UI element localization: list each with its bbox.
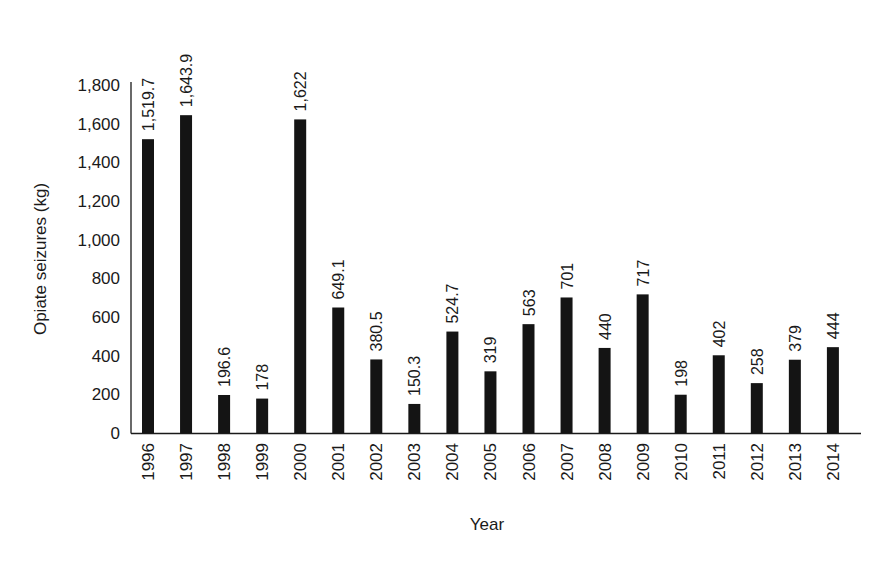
x-tick-label: 2013: [786, 443, 805, 481]
bar-2002: [370, 359, 382, 433]
y-tick-label: 600: [92, 308, 120, 327]
y-tick-label: 0: [111, 424, 120, 443]
bar-value-label: 717: [635, 260, 652, 287]
bar-2004: [446, 332, 458, 433]
bar-2005: [484, 371, 496, 433]
bar-value-label: 1,519.7: [140, 78, 157, 131]
y-tick-label: 1,600: [77, 115, 120, 134]
y-tick-label: 1,000: [77, 231, 120, 250]
bar-value-label: 196.6: [216, 347, 233, 387]
x-tick-label: 2011: [710, 443, 729, 480]
bar-2003: [408, 404, 420, 433]
bar-2007: [561, 297, 573, 433]
bar-value-label: 1,622: [292, 71, 309, 111]
y-tick-label: 1,400: [77, 153, 120, 172]
y-axis-title: Opiate seizures (kg): [31, 183, 50, 335]
bar-value-label: 380.5: [368, 311, 385, 351]
bar-value-labels: 1,519.71,643.9196.61781,622649.1380.5150…: [140, 54, 842, 396]
x-tick-label: 2010: [672, 443, 691, 481]
bar-value-label: 178: [254, 364, 271, 391]
bar-value-label: 319: [482, 337, 499, 364]
y-tick-label: 1,200: [77, 192, 120, 211]
x-tick-label: 2007: [558, 443, 577, 481]
bar-1998: [218, 395, 230, 433]
bar-value-label: 524.7: [444, 283, 461, 323]
bar-value-label: 649.1: [330, 259, 347, 299]
bar-2006: [523, 324, 535, 433]
bar-2012: [751, 383, 763, 433]
x-tick-label: 2012: [748, 443, 767, 481]
bar-2013: [789, 360, 801, 433]
x-tick-label: 1998: [215, 443, 234, 481]
bar-value-label: 563: [521, 289, 538, 316]
bar-value-label: 150.3: [406, 356, 423, 396]
bar-2010: [675, 395, 687, 433]
bar-1999: [256, 399, 268, 433]
y-tick-label: 400: [92, 347, 120, 366]
bar-value-label: 701: [559, 263, 576, 290]
bar-2009: [637, 294, 649, 433]
x-tick-label: 2000: [291, 443, 310, 481]
bar-series: [142, 115, 839, 433]
x-tick-label: 2009: [634, 443, 653, 481]
bar-value-label: 444: [825, 312, 842, 339]
bar-2001: [332, 308, 344, 433]
x-tick-label: 2006: [520, 443, 539, 481]
bar-value-label: 440: [597, 313, 614, 340]
x-tick-label: 1997: [177, 443, 196, 481]
x-tick-label: 2002: [367, 443, 386, 481]
x-tick-label: 2005: [481, 443, 500, 481]
bar-1996: [142, 139, 154, 433]
bar-value-label: 402: [711, 320, 728, 347]
y-axis-tick-labels: 02004006008001,0001,2001,4001,6001,800: [77, 76, 120, 443]
x-axis-title: Year: [470, 515, 505, 534]
x-tick-label: 1999: [253, 443, 272, 481]
x-tick-label: 2008: [596, 443, 615, 481]
x-tick-label: 2001: [329, 443, 348, 481]
bar-2000: [294, 119, 306, 433]
bar-value-label: 379: [787, 325, 804, 352]
x-axis-tick-labels: 1996199719981999200020012002200320042005…: [139, 443, 843, 481]
bar-2014: [827, 347, 839, 433]
bar-value-label: 1,643.9: [178, 54, 195, 107]
bar-value-label: 198: [673, 360, 690, 387]
x-tick-label: 2014: [824, 443, 843, 481]
y-tick-label: 1,800: [77, 76, 120, 95]
bar-value-label: 258: [749, 348, 766, 375]
y-tick-label: 800: [92, 269, 120, 288]
x-tick-label: 1996: [139, 443, 158, 481]
bar-2008: [599, 348, 611, 433]
x-tick-label: 2004: [443, 443, 462, 481]
x-tick-label: 2003: [405, 443, 424, 481]
bar-chart: 02004006008001,0001,2001,4001,6001,800 1…: [0, 0, 885, 568]
bar-1997: [180, 115, 192, 433]
bar-2011: [713, 355, 725, 433]
y-tick-label: 200: [92, 385, 120, 404]
